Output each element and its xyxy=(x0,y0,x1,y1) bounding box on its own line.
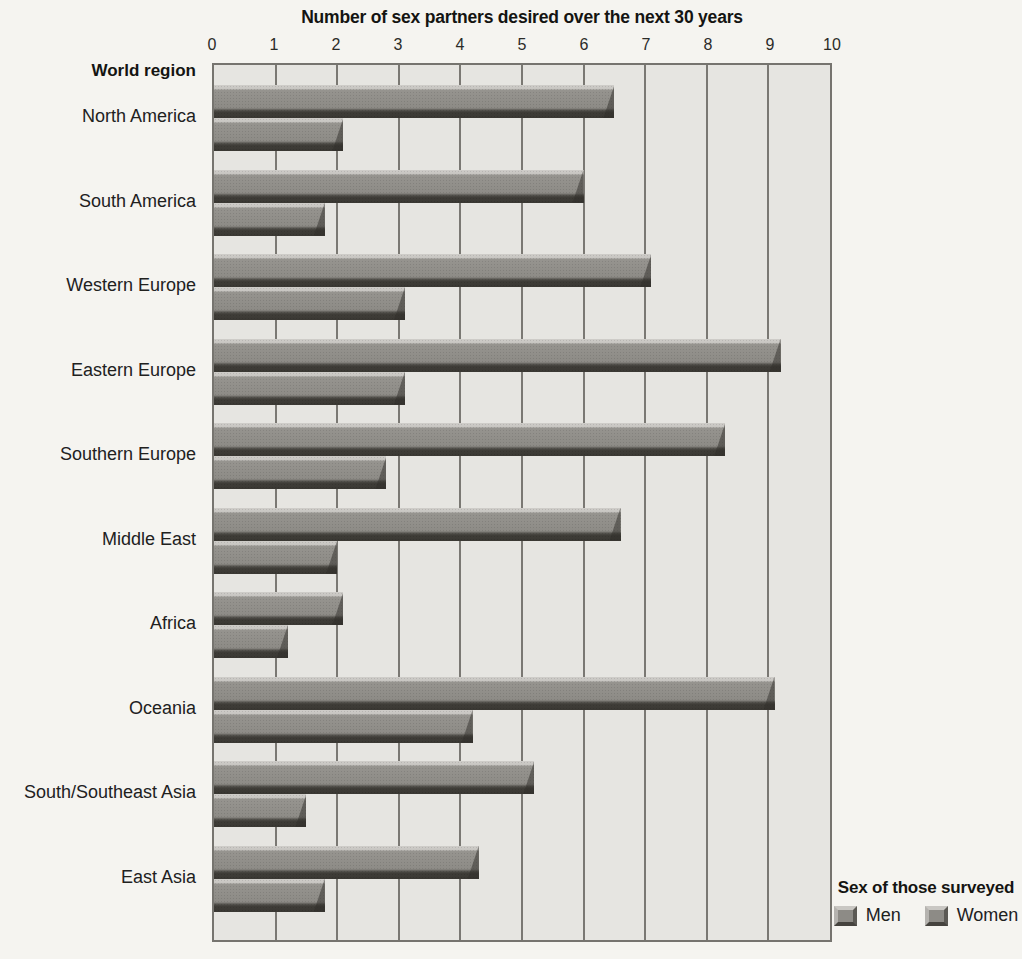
region-labels: North AmericaSouth AmericaWestern Europe… xyxy=(0,63,204,942)
legend-item-men: Men xyxy=(834,905,901,926)
bar-group xyxy=(214,339,830,424)
region-label: East Asia xyxy=(121,865,196,889)
legend-title: Sex of those surveyed xyxy=(812,878,1022,898)
region-label: North America xyxy=(82,104,196,128)
bar-men xyxy=(214,508,621,541)
bar-men xyxy=(214,592,343,625)
bar-group xyxy=(214,846,830,931)
bar-men xyxy=(214,761,534,794)
bar-group xyxy=(214,761,830,846)
x-tick-label: 8 xyxy=(704,36,713,54)
bar-women xyxy=(214,794,306,827)
bar-group xyxy=(214,423,830,508)
region-label: South/Southeast Asia xyxy=(24,780,196,804)
bar-group xyxy=(214,254,830,339)
bar-group xyxy=(214,170,830,255)
bar-women xyxy=(214,372,405,405)
bar-group xyxy=(214,508,830,593)
region-label: South America xyxy=(79,189,196,213)
region-label: Western Europe xyxy=(66,273,196,297)
bar-women xyxy=(214,203,325,236)
bar-women xyxy=(214,879,325,912)
legend-item-label: Women xyxy=(957,905,1019,926)
plot-area: Sex of those surveyed Men Women xyxy=(212,63,832,942)
bar-women xyxy=(214,625,288,658)
x-tick-label: 9 xyxy=(766,36,775,54)
x-axis: 012345678910 xyxy=(212,36,832,58)
bar-groups xyxy=(214,65,830,940)
bar-women xyxy=(214,456,386,489)
bar-men xyxy=(214,254,651,287)
region-label: Africa xyxy=(150,611,196,635)
x-tick-label: 10 xyxy=(823,36,841,54)
bar-men xyxy=(214,170,584,203)
bar-men xyxy=(214,423,725,456)
x-tick-label: 4 xyxy=(456,36,465,54)
bar-women xyxy=(214,541,337,574)
bar-group xyxy=(214,85,830,170)
bar-women xyxy=(214,287,405,320)
bar-men xyxy=(214,846,479,879)
region-label: Eastern Europe xyxy=(71,358,196,382)
bar-women xyxy=(214,118,343,151)
legend-item-women: Women xyxy=(925,905,1019,926)
region-label: Middle East xyxy=(102,527,196,551)
legend-items: Men Women xyxy=(812,905,1022,926)
x-tick-label: 3 xyxy=(394,36,403,54)
x-tick-label: 5 xyxy=(518,36,527,54)
x-tick-label: 1 xyxy=(270,36,279,54)
bar-group xyxy=(214,592,830,677)
bar-men xyxy=(214,677,775,710)
chart-title: Number of sex partners desired over the … xyxy=(212,7,832,28)
bar-men xyxy=(214,339,781,372)
x-tick-label: 6 xyxy=(580,36,589,54)
legend-item-label: Men xyxy=(866,905,901,926)
bar-women xyxy=(214,710,473,743)
women-swatch-icon xyxy=(925,906,948,926)
legend: Sex of those surveyed Men Women xyxy=(812,878,1022,926)
bar-men xyxy=(214,85,614,118)
x-tick-label: 7 xyxy=(642,36,651,54)
men-swatch-icon xyxy=(834,906,857,926)
region-label: Southern Europe xyxy=(60,442,196,466)
region-label: Oceania xyxy=(129,696,196,720)
x-tick-label: 0 xyxy=(208,36,217,54)
bar-group xyxy=(214,677,830,762)
x-tick-label: 2 xyxy=(332,36,341,54)
